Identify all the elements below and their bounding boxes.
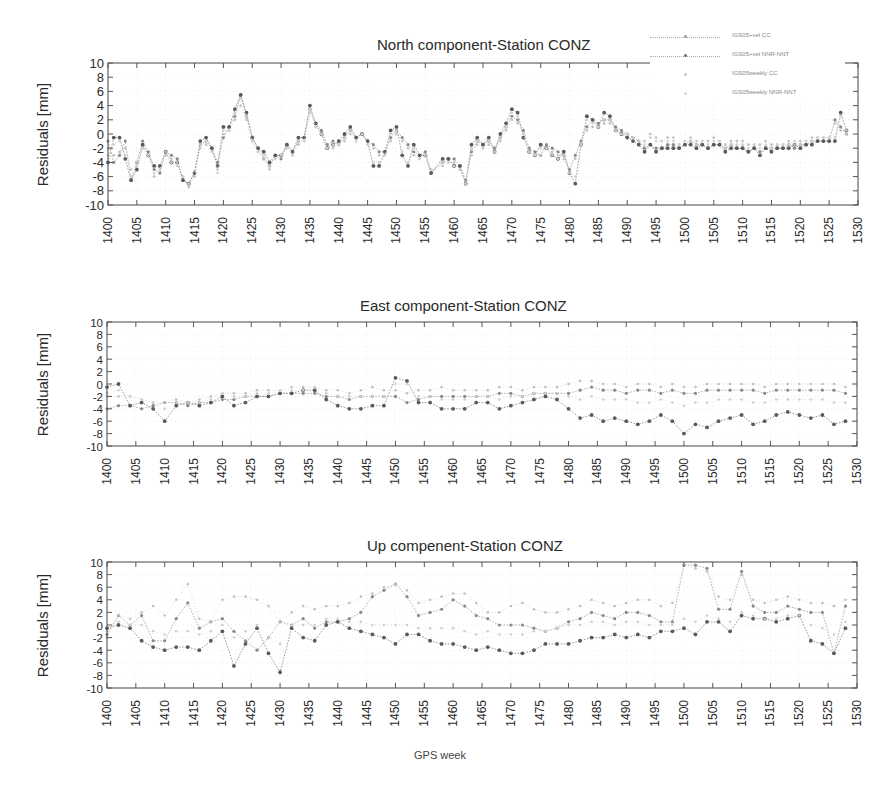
svg-text:1455: 1455 [418, 217, 432, 244]
svg-text:1440: 1440 [331, 700, 345, 727]
svg-text:-2: -2 [93, 632, 103, 644]
svg-text:1510: 1510 [735, 458, 749, 485]
svg-text:8: 8 [97, 329, 103, 341]
svg-text:-8: -8 [93, 670, 103, 682]
svg-text:1495: 1495 [648, 458, 662, 485]
svg-text:1435: 1435 [302, 700, 316, 727]
svg-text:1410: 1410 [158, 458, 172, 485]
svg-text:1450: 1450 [388, 458, 402, 485]
svg-text:1460: 1460 [446, 700, 460, 727]
svg-text:1400: 1400 [100, 458, 114, 485]
legend-label: IGS05weekly CC [732, 70, 778, 76]
svg-text:0: 0 [97, 379, 103, 391]
svg-text:1470: 1470 [504, 458, 518, 485]
legend-marker-icon [684, 73, 687, 76]
svg-text:1520: 1520 [792, 458, 806, 485]
svg-text:1515: 1515 [763, 458, 777, 485]
svg-text:10: 10 [90, 317, 103, 329]
svg-text:1405: 1405 [129, 700, 143, 727]
svg-text:1465: 1465 [475, 700, 489, 727]
svg-text:1495: 1495 [649, 217, 663, 244]
svg-text:4: 4 [97, 98, 104, 113]
svg-text:1465: 1465 [476, 217, 490, 244]
svg-text:1525: 1525 [822, 217, 836, 244]
svg-text:1415: 1415 [188, 217, 202, 244]
svg-text:1415: 1415 [187, 700, 201, 727]
svg-text:2: 2 [97, 366, 103, 378]
svg-text:1500: 1500 [677, 458, 691, 485]
svg-text:1415: 1415 [187, 458, 201, 485]
svg-text:1445: 1445 [360, 700, 374, 727]
svg-text:1465: 1465 [475, 458, 489, 485]
svg-text:1515: 1515 [764, 217, 778, 244]
svg-text:-10: -10 [86, 683, 103, 695]
legend-marker-icon [684, 92, 687, 95]
svg-text:6: 6 [97, 341, 103, 353]
svg-text:1505: 1505 [707, 217, 721, 244]
svg-text:1530: 1530 [850, 458, 864, 485]
svg-text:1475: 1475 [533, 458, 547, 485]
svg-text:1425: 1425 [244, 458, 258, 485]
svg-text:1430: 1430 [274, 217, 288, 244]
svg-text:1440: 1440 [331, 458, 345, 485]
svg-text:1500: 1500 [677, 700, 691, 727]
svg-text:1490: 1490 [620, 217, 634, 244]
svg-text:1420: 1420 [216, 217, 230, 244]
svg-text:-2: -2 [92, 141, 104, 156]
svg-text:6: 6 [97, 84, 104, 99]
svg-text:1500: 1500 [678, 217, 692, 244]
svg-text:1440: 1440 [332, 217, 346, 244]
svg-text:1485: 1485 [590, 458, 604, 485]
svg-text:1400: 1400 [101, 217, 115, 244]
svg-text:6: 6 [97, 582, 103, 594]
svg-text:1480: 1480 [562, 458, 576, 485]
svg-text:-4: -4 [93, 403, 104, 415]
svg-text:1460: 1460 [447, 217, 461, 244]
svg-text:1470: 1470 [505, 217, 519, 244]
svg-text:-10: -10 [86, 441, 103, 453]
svg-text:0: 0 [97, 127, 104, 142]
svg-text:1425: 1425 [244, 700, 258, 727]
svg-text:1455: 1455 [417, 700, 431, 727]
svg-text:1515: 1515 [763, 700, 777, 727]
svg-text:1455: 1455 [417, 458, 431, 485]
svg-text:1450: 1450 [388, 700, 402, 727]
svg-text:2: 2 [97, 607, 103, 619]
legend-item: IGS05weekly NNR-NNT [650, 87, 845, 103]
svg-text:1410: 1410 [158, 700, 172, 727]
svg-text:1520: 1520 [792, 700, 806, 727]
svg-text:1490: 1490 [619, 700, 633, 727]
svg-text:1505: 1505 [706, 700, 720, 727]
svg-text:1460: 1460 [446, 458, 460, 485]
east-chart-title: East component-Station CONZ [360, 297, 567, 314]
svg-text:1405: 1405 [129, 458, 143, 485]
svg-text:4: 4 [97, 594, 104, 606]
svg-text:-4: -4 [93, 645, 104, 657]
svg-text:1450: 1450 [389, 217, 403, 244]
svg-text:1505: 1505 [706, 458, 720, 485]
svg-text:1475: 1475 [534, 217, 548, 244]
svg-text:-10: -10 [85, 198, 104, 213]
svg-text:-6: -6 [93, 416, 103, 428]
svg-text:8: 8 [97, 70, 104, 85]
legend-marker-icon [684, 35, 687, 38]
up-y-axis-label: Residuals [mm] [34, 546, 51, 706]
svg-text:-8: -8 [92, 183, 104, 198]
svg-text:2: 2 [97, 112, 104, 127]
svg-text:1420: 1420 [215, 700, 229, 727]
legend-label: IGS05+vel CC [732, 32, 771, 38]
legend: IGS05+vel CC IGS05+vel NNR-NNT IGS05week… [650, 30, 845, 102]
svg-text:8: 8 [97, 569, 103, 581]
svg-text:1510: 1510 [735, 700, 749, 727]
svg-text:-4: -4 [92, 155, 104, 170]
up-chart-title: Up compenent-Station CONZ [367, 537, 563, 554]
legend-marker-icon [684, 54, 687, 57]
svg-text:1485: 1485 [590, 700, 604, 727]
legend-item: IGS05+vel CC [650, 30, 845, 46]
svg-text:1530: 1530 [851, 217, 865, 244]
svg-text:1525: 1525 [821, 700, 835, 727]
svg-text:1445: 1445 [360, 458, 374, 485]
svg-text:4: 4 [97, 354, 104, 366]
svg-text:1435: 1435 [303, 217, 317, 244]
svg-text:1470: 1470 [504, 700, 518, 727]
